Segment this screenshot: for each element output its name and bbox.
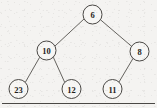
edge-root-to-left [55, 19, 84, 46]
edge-left-to-leaf-1 [25, 57, 39, 82]
node-right-child[interactable]: 8 [130, 42, 149, 61]
edge-root-to-right [100, 20, 131, 47]
figure-canvas: 6 10 8 23 12 11 [0, 0, 157, 108]
node-label: 11 [108, 85, 116, 95]
node-label: 6 [90, 10, 94, 20]
node-leaf-left-outer[interactable]: 23 [9, 80, 28, 99]
node-label: 10 [42, 46, 51, 56]
node-left-child[interactable]: 10 [37, 41, 56, 60]
edge-right-to-leaf-1 [119, 58, 133, 82]
node-label: 12 [67, 85, 76, 95]
node-root[interactable]: 6 [83, 5, 102, 24]
node-label: 23 [14, 85, 23, 95]
binary-tree-diagram: 6 10 8 23 12 11 [0, 0, 157, 108]
edge-left-to-leaf-2 [53, 57, 64, 82]
node-leaf-left-inner[interactable]: 12 [62, 80, 81, 99]
node-leaf-right-inner[interactable]: 11 [103, 80, 122, 99]
node-label: 8 [137, 47, 141, 57]
